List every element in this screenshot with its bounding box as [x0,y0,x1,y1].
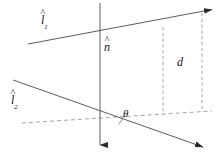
line-l1 [28,10,212,45]
label-n-hat: ^n [104,41,110,53]
n-glyph-wrap: ^n [104,41,110,53]
label-angle-theta: θ [123,108,128,119]
hat-accent-icon: ^ [40,8,45,18]
label-l-hat-2: ^l2 [11,94,18,109]
l2-subscript: 2 [14,103,18,111]
line-l2 [13,80,203,147]
hat-accent-icon: ^ [105,35,110,45]
label-distance-d: d [177,56,183,68]
figure-canvas [0,0,224,156]
geometry-figure: ^l1 ^l2 ^n d θ [0,0,224,156]
l1-subscript: 1 [44,23,48,31]
hat-accent-icon: ^ [10,88,15,98]
label-l-hat-1: ^l1 [41,14,48,29]
